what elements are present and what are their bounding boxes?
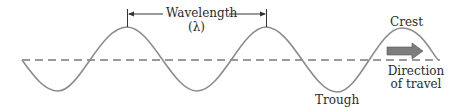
arrowhead-right-icon: [260, 12, 266, 17]
wave-diagram: Wavelength (λ) Crest Trough Direction of…: [0, 0, 457, 111]
crest-label: Crest: [390, 16, 423, 29]
arrowhead-left-icon: [128, 12, 134, 17]
wavelength-label: Wavelength: [166, 7, 237, 20]
direction-label-line2: of travel: [381, 78, 451, 91]
lambda-label: (λ): [188, 21, 205, 34]
trough-label: Trough: [315, 94, 359, 107]
direction-arrow-icon: [387, 43, 423, 59]
